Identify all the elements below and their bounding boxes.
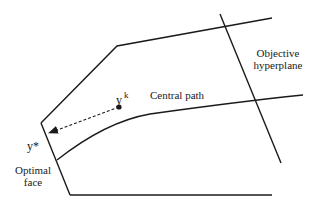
- iterate-yk-label: yk: [116, 89, 129, 106]
- iterate-yk-superscript: k: [124, 90, 129, 100]
- objective-hyperplane-line: [220, 14, 281, 163]
- central-path-label-text: Central path: [150, 89, 204, 101]
- objective-hyperplane-label-line1: Objective: [240, 47, 316, 59]
- optimal-face-label-line2: face: [10, 176, 56, 188]
- central-path-label: Central path: [150, 89, 204, 101]
- optimal-face-label-line1: Optimal: [10, 164, 56, 176]
- objective-hyperplane-label-line2: hyperplane: [240, 59, 316, 71]
- optimal-point-label: y*: [27, 140, 39, 152]
- optimal-point-label-text: y*: [27, 139, 39, 153]
- step-arrow-dashed: [49, 107, 119, 133]
- feasible-region-upper-edge: [41, 18, 272, 123]
- objective-hyperplane-label: Objective hyperplane: [240, 47, 316, 71]
- optimal-face-label: Optimal face: [10, 164, 56, 188]
- iterate-yk-base: y: [116, 93, 122, 107]
